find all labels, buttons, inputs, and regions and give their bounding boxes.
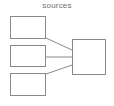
diagram-title: sources xyxy=(0,1,114,11)
diagram-canvas: sources xyxy=(0,0,114,106)
target-node[interactable] xyxy=(72,39,106,75)
edge-src3-target xyxy=(46,65,72,74)
edge-src1-target xyxy=(46,38,72,50)
source-node-3[interactable] xyxy=(10,73,46,96)
source-node-1[interactable] xyxy=(10,16,46,39)
source-node-2[interactable] xyxy=(10,45,46,67)
